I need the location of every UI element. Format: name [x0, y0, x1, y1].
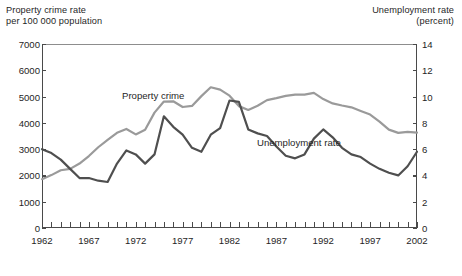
x-tick [201, 222, 202, 228]
y-tick-label-right: 8 [422, 117, 427, 128]
y-tick-label-right: 2 [422, 196, 427, 207]
y-tick-label-right: 0 [422, 223, 427, 234]
x-tick [258, 222, 259, 228]
y-tick-left [42, 44, 46, 45]
y-tick-left [42, 149, 46, 150]
y-tick-label-right: 12 [422, 65, 433, 76]
x-tick [239, 222, 240, 228]
right-axis-title: Unemployment rate (percent) [372, 5, 454, 28]
x-tick [370, 222, 371, 228]
x-tick-label: 1982 [219, 235, 240, 246]
y-tick-label-left: 6000 [19, 65, 40, 76]
x-tick [80, 222, 81, 228]
y-tick-label-right: 10 [422, 91, 433, 102]
y-tick-left [42, 228, 46, 229]
x-tick [351, 222, 352, 228]
y-tick-label-right: 6 [422, 144, 427, 155]
x-tick [314, 222, 315, 228]
y-tick-left [42, 175, 46, 176]
x-tick [61, 222, 62, 228]
x-tick [70, 222, 71, 228]
x-tick [248, 222, 249, 228]
y-tick-right [413, 97, 417, 98]
x-tick-label: 1967 [78, 235, 99, 246]
x-tick [220, 222, 221, 228]
y-tick-right [413, 175, 417, 176]
y-tick-right [413, 70, 417, 71]
x-tick [342, 222, 343, 228]
x-tick-label: 1992 [313, 235, 334, 246]
y-tick-label-left: 2000 [19, 170, 40, 181]
y-tick-left [42, 202, 46, 203]
x-tick [126, 222, 127, 228]
x-tick-label: 1962 [31, 235, 52, 246]
x-tick-label: 1972 [125, 235, 146, 246]
x-tick [51, 222, 52, 228]
x-tick [230, 222, 231, 228]
x-tick-label: 1977 [172, 235, 193, 246]
y-tick-label-left: 0 [35, 223, 40, 234]
x-tick [117, 222, 118, 228]
x-tick [286, 222, 287, 228]
line-unemployment [42, 101, 417, 182]
left-axis-title: Property crime rate per 100 000 populati… [6, 5, 102, 28]
x-tick [305, 222, 306, 228]
figure-dual-axis-line-chart: Property crime rate per 100 000 populati… [0, 0, 462, 276]
y-tick-label-right: 4 [422, 170, 427, 181]
x-tick [192, 222, 193, 228]
x-tick [276, 222, 277, 228]
x-tick [108, 222, 109, 228]
x-tick [211, 222, 212, 228]
x-tick [98, 222, 99, 228]
plot-area [42, 44, 417, 228]
y-tick-label-left: 7000 [19, 39, 40, 50]
x-tick-label: 1997 [359, 235, 380, 246]
x-tick [145, 222, 146, 228]
x-tick [136, 222, 137, 228]
x-tick [361, 222, 362, 228]
x-tick [380, 222, 381, 228]
x-tick [89, 222, 90, 228]
x-tick [333, 222, 334, 228]
x-tick [398, 222, 399, 228]
x-tick [267, 222, 268, 228]
x-tick-label: 1987 [266, 235, 287, 246]
x-tick [173, 222, 174, 228]
x-tick [389, 222, 390, 228]
x-tick [417, 222, 418, 228]
x-tick [155, 222, 156, 228]
x-tick [183, 222, 184, 228]
chart-series-canvas [42, 44, 417, 228]
y-tick-left [42, 97, 46, 98]
x-tick [323, 222, 324, 228]
y-tick-right [413, 123, 417, 124]
x-tick [295, 222, 296, 228]
x-tick [42, 222, 43, 228]
y-tick-label-left: 3000 [19, 144, 40, 155]
y-tick-right [413, 202, 417, 203]
y-tick-left [42, 70, 46, 71]
x-tick [408, 222, 409, 228]
series-label-property-crime: Property crime [122, 90, 184, 101]
y-tick-label-left: 1000 [19, 196, 40, 207]
x-tick-label: 2002 [406, 235, 427, 246]
y-tick-left [42, 123, 46, 124]
y-tick-right [413, 149, 417, 150]
y-tick-label-left: 4000 [19, 117, 40, 128]
y-tick-right [413, 228, 417, 229]
y-tick-label-right: 14 [422, 39, 433, 50]
x-tick [164, 222, 165, 228]
y-tick-right [413, 44, 417, 45]
y-tick-label-left: 5000 [19, 91, 40, 102]
series-label-unemployment: Unemployment rate [257, 137, 341, 148]
